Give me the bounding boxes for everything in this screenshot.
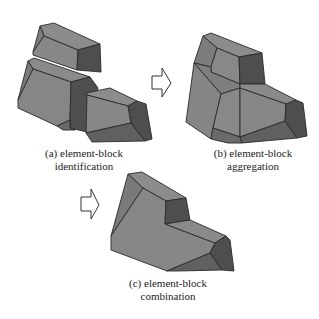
caption-b-line2: aggregation (198, 160, 308, 173)
caption-c-line1: (c) element-block (118, 277, 218, 290)
block-a-right (86, 88, 152, 142)
hollow-right-arrow-icon (152, 68, 171, 97)
caption-panel-b: (b) element-block aggregation (198, 147, 308, 173)
panel-c-block (111, 172, 234, 271)
caption-panel-a: (a) element-block identification (28, 147, 140, 173)
caption-b-line1: (b) element-block (198, 147, 308, 160)
hollow-right-arrow-icon (81, 189, 99, 219)
panel-b-block (186, 33, 307, 143)
panel-a-blocks (18, 23, 152, 142)
caption-a-line1: (a) element-block (28, 147, 140, 160)
caption-panel-c: (c) element-block combination (118, 277, 218, 303)
caption-a-line2: identification (28, 160, 140, 173)
caption-c-line2: combination (118, 290, 218, 303)
